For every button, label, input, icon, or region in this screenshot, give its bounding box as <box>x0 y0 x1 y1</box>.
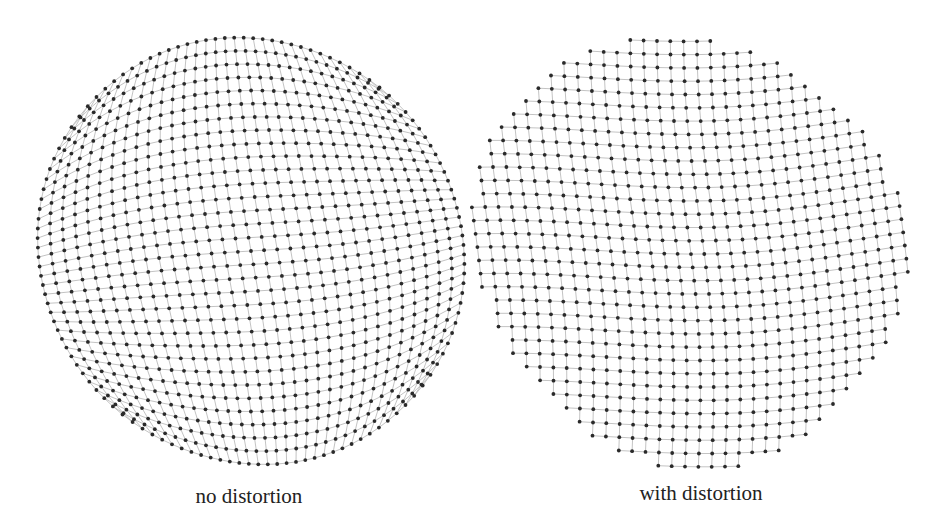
mesh-nodes <box>36 36 467 466</box>
mesh-figure <box>0 0 929 525</box>
mesh-with-distortion <box>470 38 910 469</box>
mesh-no-distortion <box>36 36 467 466</box>
mesh-nodes <box>470 38 910 469</box>
caption-with-distortion: with distortion <box>639 481 762 506</box>
caption-no-distortion: no distortion <box>196 484 303 509</box>
